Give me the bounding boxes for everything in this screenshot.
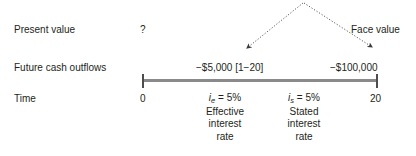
time-axis-end-label: 20 [370,93,381,105]
stated-rate-line-3: rate [267,131,341,144]
effective-rate-equation: ie = 5% [188,92,262,106]
stated-rate-line-1: Stated [267,106,341,119]
present-value-unknown-marker: ? [140,24,146,36]
callout-arrow-to-periodic-payment [247,3,303,48]
stated-rate-line-2: interest [267,118,341,131]
stated-rate-subscript: s [290,96,294,105]
effective-interest-rate-annotation: ie = 5% Effective interest rate [188,92,262,143]
effective-rate-value: = 5% [215,92,241,103]
face-value-callout-label: Face value [351,24,400,36]
row-label-present-value: Present value [14,24,75,36]
face-value-amount: −$100,000 [330,62,378,74]
timeline-bar [143,79,377,82]
effective-rate-line-3: rate [188,131,262,144]
periodic-payment-amount: −$5,000 [1−20] [196,62,263,74]
time-axis-start-label: 0 [140,93,146,105]
bond-timeline-diagram: Present value Future cash outflows Time … [0,0,416,156]
timeline-tick-start [142,74,144,88]
effective-rate-subscript: e [211,96,215,105]
effective-rate-line-2: interest [188,118,262,131]
timeline-tick-end [376,74,378,88]
stated-rate-value: = 5% [294,92,320,103]
stated-rate-equation: is = 5% [267,92,341,106]
effective-rate-line-1: Effective [188,106,262,119]
row-label-time: Time [14,93,36,105]
row-label-future-cash-outflows: Future cash outflows [14,62,106,74]
stated-interest-rate-annotation: is = 5% Stated interest rate [267,92,341,143]
